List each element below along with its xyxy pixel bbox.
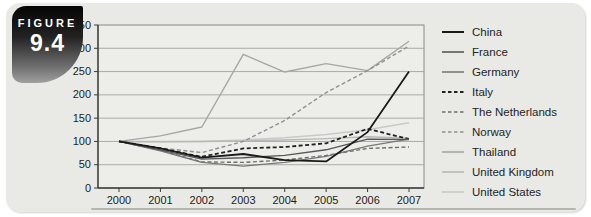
legend-item-france: France [441,42,557,62]
x-tick-label: 2003 [231,194,255,206]
x-tick-label: 2007 [397,194,421,206]
legend-line-icon [441,28,465,36]
legend-line-icon [441,128,465,136]
legend-label: Norway [472,126,511,138]
legend-label: Germany [472,66,519,78]
chart-legend: ChinaFranceGermanyItalyThe NetherlandsNo… [441,22,557,202]
legend-line-icon [441,188,465,196]
legend-label: United States [472,186,541,198]
y-tick-label: 200 [73,88,91,100]
y-tick-label: 150 [73,112,91,124]
figure-9-4: FIGURE 9.4 05010015020025030035020002001… [0,0,591,217]
legend-line-icon [441,148,465,156]
x-tick-label: 2006 [355,194,379,206]
legend-line-icon [441,68,465,76]
y-tick-label: 250 [73,65,91,77]
legend-label: The Netherlands [472,106,557,118]
legend-item-thailand: Thailand [441,142,557,162]
x-tick-label: 2000 [107,194,131,206]
legend-item-united-states: United States [441,182,557,202]
legend-label: China [472,26,502,38]
legend-line-icon [441,108,465,116]
y-tick-label: 100 [73,135,91,147]
bottom-divider [91,208,576,210]
y-tick-label: 50 [79,158,91,170]
x-tick-label: 2004 [272,194,296,206]
line-chart: 0501001502002503003502000200120022003200… [62,15,438,207]
figure-badge-label: FIGURE [12,17,83,29]
x-axis: 20002001200220032004200520062007 [107,188,421,206]
legend-label: Thailand [472,146,516,158]
legend-item-norway: Norway [441,122,557,142]
legend-line-icon [441,168,465,176]
legend-line-icon [441,88,465,96]
legend-line-icon [441,48,465,56]
x-tick-label: 2001 [148,194,172,206]
y-tick-label: 0 [85,182,91,194]
x-tick-label: 2005 [314,194,338,206]
legend-label: France [472,46,508,58]
figure-badge-number: 9.4 [12,30,83,57]
figure-card: FIGURE 9.4 05010015020025030035020002001… [6,3,585,212]
legend-label: Italy [472,86,493,98]
legend-item-the-netherlands: The Netherlands [441,102,557,122]
x-tick-label: 2002 [190,194,214,206]
legend-item-italy: Italy [441,82,557,102]
plot-area [98,25,424,188]
legend-item-china: China [441,22,557,42]
legend-item-germany: Germany [441,62,557,82]
legend-item-united-kingdom: United Kingdom [441,162,557,182]
legend-label: United Kingdom [472,166,554,178]
